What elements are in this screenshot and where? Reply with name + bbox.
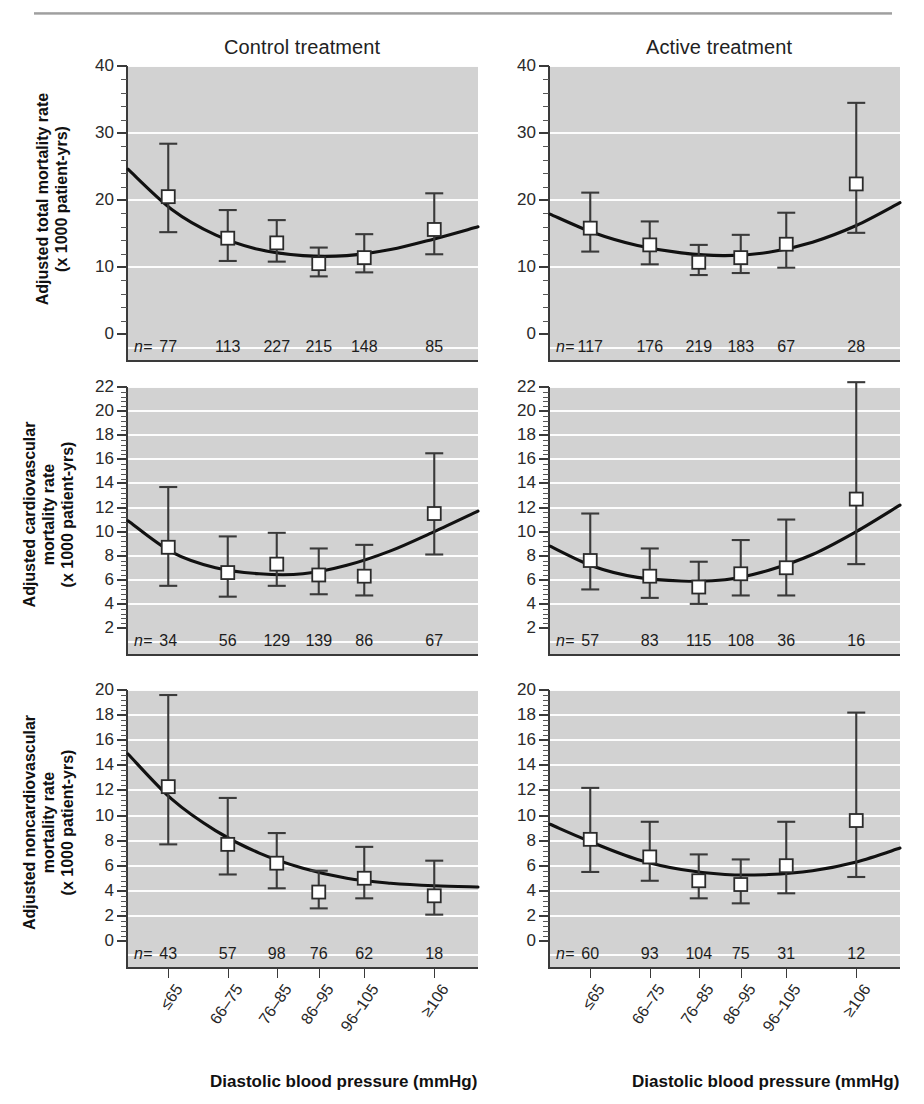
xaxis-title-right: Diastolic blood pressure (mmHg) <box>632 1072 899 1092</box>
y-tick-minor <box>121 720 127 721</box>
y-tick-minor <box>121 614 127 615</box>
y-tick-minor <box>543 710 549 711</box>
y-tick-major <box>539 507 549 509</box>
y-tick-minor <box>121 921 127 922</box>
y-tick-minor <box>543 307 549 308</box>
y-tick-minor <box>121 575 127 576</box>
x-tick <box>228 969 229 978</box>
x-tick-label: 96–105 <box>330 981 383 1045</box>
y-tick-label: 0 <box>80 931 114 951</box>
y-tick-major <box>539 627 549 629</box>
y-tick-minor <box>121 469 127 470</box>
y-tick-minor <box>543 785 549 786</box>
y-tick-minor <box>121 780 127 781</box>
gridline <box>550 890 900 892</box>
y-tick-minor <box>543 440 549 441</box>
y-tick-minor <box>543 392 549 393</box>
y-tick-minor <box>543 321 549 322</box>
y-tick-minor <box>543 821 549 822</box>
y-tick-major <box>539 840 549 842</box>
n-row-label-noncv-control: n= <box>134 945 152 963</box>
y-tick-label: 2 <box>502 618 536 638</box>
y-tick-major <box>117 458 127 460</box>
y-tick-major <box>539 579 549 581</box>
y-tick-label: 4 <box>502 594 536 614</box>
y-tick-label: 40 <box>502 56 536 76</box>
n-value: 62 <box>355 945 373 963</box>
y-tick-minor <box>543 522 549 523</box>
y-tick-major <box>539 266 549 268</box>
x-tick-label: ≤65 <box>556 981 609 1045</box>
y-tick-minor <box>543 254 549 255</box>
y-tick-minor <box>121 401 127 402</box>
y-tick-minor <box>121 498 127 499</box>
y-tick-minor <box>121 254 127 255</box>
y-tick-major <box>539 865 549 867</box>
column-title-active: Active treatment <box>646 36 792 59</box>
y-tick-minor <box>543 750 549 751</box>
y-tick-major <box>117 714 127 716</box>
y-tick-minor <box>121 565 127 566</box>
gridline <box>128 603 478 605</box>
y-tick-minor <box>543 695 549 696</box>
y-tick-minor <box>543 575 549 576</box>
y-tick-minor <box>543 831 549 832</box>
x-axis-line-noncv-active <box>548 967 900 969</box>
y-tick-minor <box>121 931 127 932</box>
xaxis-title-left: Diastolic blood pressure (mmHg) <box>210 1072 477 1092</box>
y-tick-minor <box>121 750 127 751</box>
n-row-label-cv-control: n= <box>134 632 152 650</box>
y-tick-label: 0 <box>502 931 536 951</box>
y-tick-minor <box>121 160 127 161</box>
y-tick-minor <box>121 710 127 711</box>
y-tick-major <box>117 915 127 917</box>
y-tick-label: 16 <box>80 730 114 750</box>
y-tick-minor <box>121 795 127 796</box>
y-tick-minor <box>543 146 549 147</box>
gridline <box>128 890 478 892</box>
y-tick-major <box>117 865 127 867</box>
y-tick-minor <box>121 785 127 786</box>
y-tick-minor <box>121 805 127 806</box>
y-tick-minor <box>121 406 127 407</box>
x-tick <box>786 969 787 978</box>
n-value: 104 <box>685 945 712 963</box>
y-tick-major <box>117 410 127 412</box>
y-tick-label: 18 <box>80 705 114 725</box>
x-tick-label: ≥106 <box>400 981 453 1045</box>
y-tick-label: 2 <box>80 906 114 926</box>
y-tick-minor <box>543 896 549 897</box>
y-tick-major <box>117 199 127 201</box>
y-tick-minor <box>121 896 127 897</box>
y-tick-major <box>117 531 127 533</box>
y-tick-minor <box>543 421 549 422</box>
y-tick-label: 6 <box>80 856 114 876</box>
y-tick-major <box>117 940 127 942</box>
y-tick-minor <box>543 926 549 927</box>
gridline <box>128 199 478 201</box>
gridline <box>550 714 900 716</box>
y-tick-label: 18 <box>502 425 536 445</box>
n-value: 31 <box>777 945 795 963</box>
y-tick-label: 4 <box>502 881 536 901</box>
y-tick-minor <box>121 594 127 595</box>
n-value: 85 <box>425 338 443 356</box>
n-value: 219 <box>685 338 712 356</box>
y-tick-minor <box>121 321 127 322</box>
y-tick-minor <box>543 901 549 902</box>
y-tick-minor <box>121 856 127 857</box>
n-value: 18 <box>425 945 443 963</box>
y-tick-minor <box>543 881 549 882</box>
gridline <box>550 579 900 581</box>
y-tick-minor <box>121 106 127 107</box>
y-tick-minor <box>543 512 549 513</box>
gridline <box>550 410 900 412</box>
y-tick-minor <box>121 440 127 441</box>
y-tick-label: 0 <box>80 324 114 344</box>
gridline <box>128 840 478 842</box>
gridline <box>128 65 478 67</box>
y-tick-minor <box>543 280 549 281</box>
y-tick-minor <box>543 735 549 736</box>
y-tick-label: 16 <box>502 730 536 750</box>
y-tick-label: 12 <box>502 498 536 518</box>
